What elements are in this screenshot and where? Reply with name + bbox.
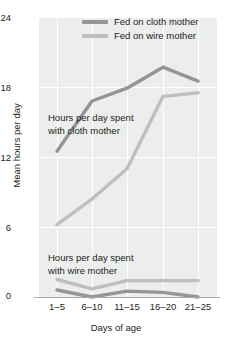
- x-tick-16-20: 16–20: [150, 301, 176, 312]
- y-tick-6-label: 6: [6, 222, 11, 233]
- y-tick-0: 0: [0, 290, 11, 301]
- series-line-3: [57, 290, 198, 297]
- y-tick-18-label: 18: [0, 82, 11, 93]
- annotation-wire-line2: with wire mother: [48, 265, 134, 278]
- y-axis-title: Mean hours per day: [11, 86, 22, 206]
- y-tick-12: 12: [0, 152, 11, 163]
- legend-item-wire: Fed on wire mother: [82, 30, 199, 41]
- x-tick-6-10: 6–10: [81, 301, 102, 312]
- legend-label-cloth: Fed on cloth mother: [114, 16, 199, 27]
- legend-swatch-cloth: [82, 20, 108, 24]
- annotation-wire-mother: Hours per day spent with wire mother: [48, 252, 134, 277]
- y-tick-12-label: 12: [0, 152, 11, 163]
- x-axis-title: Days of age: [0, 322, 232, 333]
- x-tick-11-15: 11–15: [114, 301, 140, 312]
- y-tick-18: 18: [0, 82, 11, 93]
- series-line-2: [57, 280, 198, 289]
- x-axis-line: [34, 297, 220, 298]
- annotation-cloth-mother: Hours per day spent with cloth mother: [48, 112, 134, 137]
- annotation-cloth-line2: with cloth mother: [48, 125, 134, 138]
- legend-swatch-wire: [82, 34, 108, 38]
- series-line-0: [57, 67, 198, 151]
- legend-label-wire: Fed on wire mother: [114, 30, 196, 41]
- y-tick-0-label: 0: [6, 290, 11, 301]
- x-tick-1-5: 1–5: [49, 301, 65, 312]
- annotation-wire-line1: Hours per day spent: [48, 252, 134, 265]
- y-tick-6: 6: [0, 222, 11, 233]
- legend-item-cloth: Fed on cloth mother: [82, 16, 199, 27]
- y-tick-24-label: 24: [0, 12, 11, 23]
- annotation-cloth-line1: Hours per day spent: [48, 112, 134, 125]
- line-chart: 24 18 12 6 0 Mean hours per day 1–5 6–10…: [0, 0, 232, 342]
- chart-legend: Fed on cloth mother Fed on wire mother: [82, 16, 199, 41]
- x-tick-21-25: 21–25: [185, 301, 211, 312]
- y-tick-24: 24: [0, 12, 11, 23]
